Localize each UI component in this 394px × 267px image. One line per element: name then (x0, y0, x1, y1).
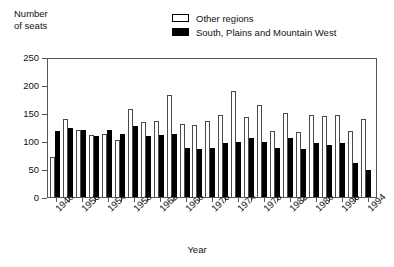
bar-south-plains-mountain-west (366, 170, 371, 197)
bar-group (296, 59, 309, 197)
y-tick-label: 50 (28, 164, 39, 175)
bar-group (218, 59, 231, 197)
bar-group (180, 59, 193, 197)
legend-item-other-regions: Other regions (172, 12, 336, 24)
y-tick-label: 100 (23, 136, 39, 147)
bar-group (167, 59, 180, 197)
bar-south-plains-mountain-west (275, 148, 280, 197)
bar-south-plains-mountain-west (262, 142, 267, 197)
bar-south-plains-mountain-west (94, 136, 99, 197)
bar-south-plains-mountain-west (236, 142, 241, 197)
bar-south-plains-mountain-west (340, 143, 345, 197)
bar-south-plains-mountain-west (327, 145, 332, 197)
bar-south-plains-mountain-west (314, 143, 319, 197)
bar-group (257, 59, 270, 197)
x-axis-title: Year (0, 244, 394, 255)
bar-group (361, 59, 374, 197)
bar-group (335, 59, 348, 197)
y-tick-label: 200 (23, 80, 39, 91)
bar-south-plains-mountain-west (68, 128, 73, 197)
bar-group (63, 59, 76, 197)
bar-group (205, 59, 218, 197)
bar-south-plains-mountain-west (223, 143, 228, 197)
legend-item-south-plains-mountain-west: South, Plains and Mountain West (172, 26, 336, 38)
bar-south-plains-mountain-west (159, 135, 164, 197)
legend-label-other-regions: Other regions (196, 13, 254, 24)
y-axis-title: Number of seats (14, 8, 48, 31)
bar-group (192, 59, 205, 197)
bar-south-plains-mountain-west (301, 149, 306, 197)
y-tick-label: 150 (23, 108, 39, 119)
bar-group (50, 59, 63, 197)
x-axis-labels: 1946195019541958196219661970197419781982… (0, 198, 394, 243)
legend-label-south-plains-mountain-west: South, Plains and Mountain West (196, 27, 336, 38)
bar-chart: Number of seats Other regions South, Pla… (0, 0, 394, 267)
bar-south-plains-mountain-west (210, 148, 215, 197)
bar-south-plains-mountain-west (133, 126, 138, 197)
bar-group (141, 59, 154, 197)
bar-south-plains-mountain-west (146, 136, 151, 197)
bar-south-plains-mountain-west (55, 131, 60, 197)
y-axis: 050100150200250 (0, 58, 47, 198)
bar-south-plains-mountain-west (288, 138, 293, 197)
bar-group (283, 59, 296, 197)
plot-area (47, 58, 377, 198)
bar-group (322, 59, 335, 197)
legend-swatch-filled-icon (172, 28, 189, 36)
bar-group (231, 59, 244, 197)
bar-south-plains-mountain-west (172, 134, 177, 197)
bar-group (309, 59, 322, 197)
bar-south-plains-mountain-west (197, 149, 202, 197)
bar-south-plains-mountain-west (185, 148, 190, 197)
bar-south-plains-mountain-west (107, 130, 112, 197)
bar-group (102, 59, 115, 197)
bar-south-plains-mountain-west (81, 130, 86, 197)
bar-group (244, 59, 257, 197)
bar-groups (48, 59, 376, 197)
bar-group (270, 59, 283, 197)
bar-group (115, 59, 128, 197)
chart-legend: Other regions South, Plains and Mountain… (172, 12, 336, 40)
bar-group (154, 59, 167, 197)
bar-south-plains-mountain-west (120, 134, 125, 197)
bar-south-plains-mountain-west (249, 138, 254, 197)
bar-group (89, 59, 102, 197)
y-tick-label: 250 (23, 52, 39, 63)
legend-swatch-open-icon (172, 14, 189, 22)
bar-group (348, 59, 361, 197)
bar-group (128, 59, 141, 197)
bar-group (76, 59, 89, 197)
